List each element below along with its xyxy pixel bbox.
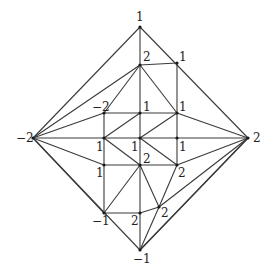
vertex-n2top xyxy=(138,63,141,66)
vertex-n2c xyxy=(138,163,141,166)
edge-nc-n1r xyxy=(140,113,177,138)
vertex-label-n2c: 2 xyxy=(143,152,151,166)
edge-top-left xyxy=(33,27,140,138)
vertex-label-n2r: 2 xyxy=(178,166,186,180)
edge-left-n2top xyxy=(33,65,140,138)
vertex-label-n1ll: 1 xyxy=(96,166,104,180)
vertex-label-nm1: −1 xyxy=(92,214,110,228)
vertex-label-nm2: −2 xyxy=(92,100,110,114)
vertex-right xyxy=(246,136,249,139)
vertex-nc xyxy=(138,136,141,139)
vertex-label-nc: 1 xyxy=(131,140,139,154)
edge-n2r-right xyxy=(177,138,248,165)
vertex-label-n1tr: 1 xyxy=(179,50,187,64)
edge-n2br-bottom xyxy=(140,207,159,250)
vertex-label-right: 2 xyxy=(253,131,261,145)
vertex-label-left: −2 xyxy=(16,131,34,145)
vertex-label-n2b: 2 xyxy=(131,214,139,228)
vertex-label-n1rr: 1 xyxy=(179,140,187,154)
edge-n2br-right xyxy=(159,138,248,207)
vertex-label-n1c: 1 xyxy=(143,100,151,114)
vertex-label-n1l: 1 xyxy=(96,140,104,154)
edge-nm1-n2c xyxy=(104,165,140,213)
edge-n1r-right xyxy=(177,113,248,138)
vertex-n1c xyxy=(138,111,141,114)
vertex-label-n2br: 2 xyxy=(161,206,169,220)
edge-n2c-n2br xyxy=(140,165,159,207)
edge-top-right xyxy=(140,27,248,138)
vertex-label-n1r: 1 xyxy=(179,100,187,114)
vertex-label-top: 1 xyxy=(136,10,144,24)
vertex-label-n2top: 2 xyxy=(143,50,151,64)
edge-right-bottom xyxy=(140,138,248,250)
vertex-label-bottom: −1 xyxy=(133,252,151,266)
vertex-n2b xyxy=(138,211,141,214)
vertex-top xyxy=(138,25,141,28)
triangulated-diamond-diagram: 1−22−121−211111122−122 xyxy=(0,0,274,273)
edge-left-nm2 xyxy=(33,113,104,138)
edge-n1l-n1c xyxy=(104,113,140,138)
edge-left-nm1 xyxy=(33,138,104,213)
edge-left-n1ll xyxy=(33,138,104,165)
